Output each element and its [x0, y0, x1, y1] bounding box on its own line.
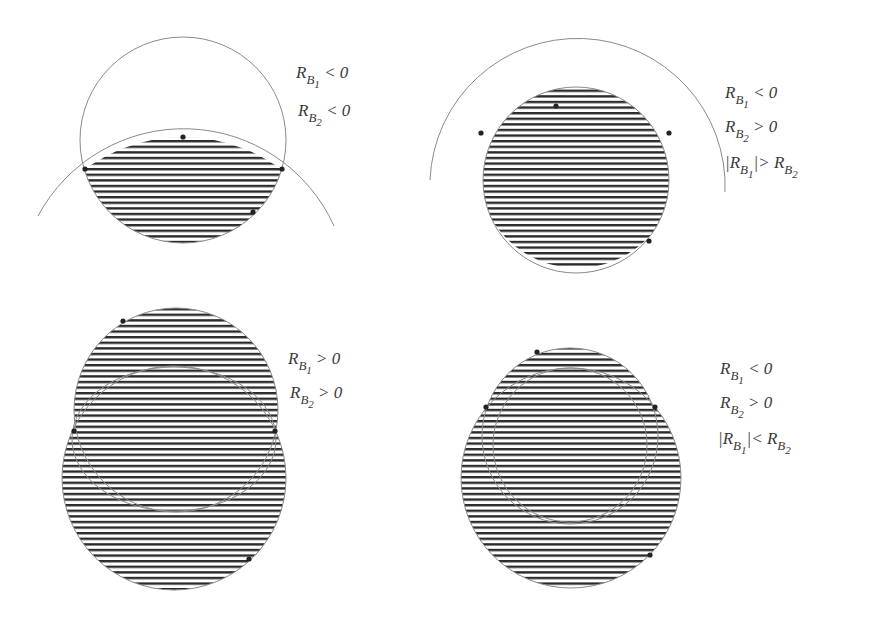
condition-label: RB1 < 0	[720, 360, 772, 386]
point-dot	[666, 130, 671, 135]
condition-label: RB2 > 0	[720, 394, 772, 420]
point-dot	[483, 404, 488, 409]
point-dot	[250, 209, 255, 214]
panel-bottom-right	[461, 348, 681, 588]
point-dot	[646, 238, 651, 243]
condition-label: RB1 > 0	[288, 350, 340, 376]
condition-label: RB1 < 0	[296, 64, 348, 90]
point-dot	[246, 556, 251, 561]
condition-label: RB2 > 0	[290, 384, 342, 410]
point-dot	[652, 404, 657, 409]
point-dot	[478, 130, 483, 135]
point-dot	[272, 428, 277, 433]
panel-bottom-left	[62, 308, 286, 590]
circle-fill-clipped	[483, 87, 669, 273]
point-dot	[534, 349, 539, 354]
point-dot	[71, 428, 76, 433]
point-dot	[120, 318, 125, 323]
panel-top-right	[430, 38, 725, 273]
condition-label: RB1 < 0	[725, 84, 777, 110]
magnitude-condition-label: |RB1|> RB2	[725, 154, 798, 180]
point-dot	[180, 134, 185, 139]
point-dot	[647, 552, 652, 557]
point-dot	[553, 103, 558, 108]
point-dot	[82, 166, 87, 171]
condition-label: RB2 > 0	[725, 118, 777, 144]
point-dot	[279, 166, 284, 171]
magnitude-condition-label: |RB1|< RB2	[718, 430, 791, 456]
condition-label: RB2 < 0	[298, 102, 350, 128]
